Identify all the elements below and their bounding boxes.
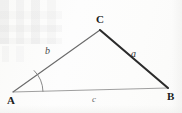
side-label-c: c — [92, 95, 96, 104]
side-label-a: a — [131, 49, 136, 59]
vertex-label-b: B — [167, 91, 174, 102]
triangle-side-b — [13, 30, 100, 92]
vertex-label-c: C — [96, 14, 104, 25]
vertex-label-a: A — [7, 95, 15, 106]
triangle-svg — [0, 0, 182, 113]
side-label-b: b — [45, 46, 50, 56]
triangle-side-a — [100, 30, 168, 88]
triangle-figure: A B C a b c — [0, 0, 182, 113]
triangle-side-c — [13, 88, 168, 92]
